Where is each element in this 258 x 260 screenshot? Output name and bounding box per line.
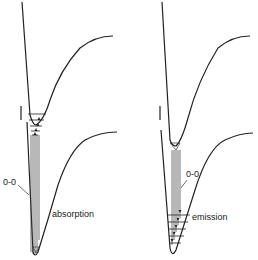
zero-zero-pointer-right — [181, 180, 187, 188]
ground-state-curve-left — [21, 106, 117, 255]
zero-zero-pointer-left — [18, 185, 29, 195]
emission-panel: 0-0 emission — [160, 2, 253, 254]
absorption-label: absorption — [52, 209, 94, 219]
excited-state-curve-left — [22, 2, 113, 125]
emission-label: emission — [192, 212, 228, 222]
zero-zero-label-left: 0-0 — [3, 177, 16, 187]
emission-arrows — [171, 150, 182, 245]
franck-condon-diagram: 0-0 absorption 0-0 — [0, 0, 258, 260]
absorption-panel: 0-0 absorption — [3, 2, 117, 255]
excited-state-curve-right — [162, 2, 250, 146]
zero-zero-label-right: 0-0 — [186, 169, 199, 179]
